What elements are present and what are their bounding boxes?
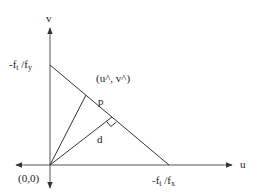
u-axis-label: u	[240, 158, 246, 170]
line-origin-to-p	[50, 95, 86, 165]
origin-label: (0,0)	[18, 172, 39, 185]
p-label: p	[98, 95, 104, 107]
u-intercept-label: -ft /fx	[152, 174, 175, 188]
line-d-perpendicular	[50, 117, 112, 165]
d-label: d	[97, 133, 103, 145]
hat-point-label: (u^, v^)	[96, 72, 130, 85]
v-intercept-label: -ft /fy	[9, 58, 32, 72]
diagram-canvas: v u (0,0) -ft /fy -ft /fx (u^, v^) p d	[0, 0, 260, 196]
right-angle-marker	[107, 121, 117, 126]
v-axis-label: v	[46, 12, 52, 24]
